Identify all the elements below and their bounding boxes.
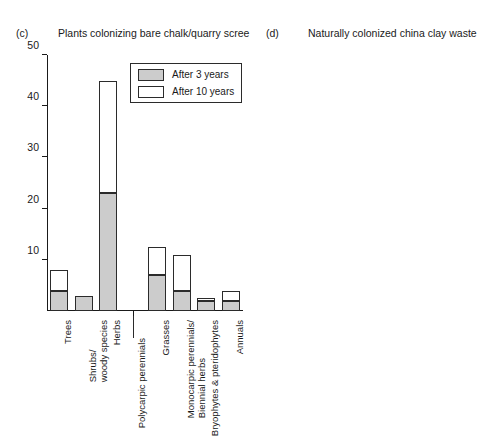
x-axis-label: Grasses	[161, 320, 172, 355]
bar	[148, 247, 166, 311]
y-tick-label: 10	[27, 245, 39, 255]
bar-segment-filled	[197, 301, 215, 311]
panel-c: (c) Plants colonizing bare chalk/quarry …	[0, 0, 250, 438]
x-axis-labels-c: TreesShrubs/woody speciesHerbsPolycarpic…	[47, 316, 243, 436]
legend-c: After 3 years After 10 years	[130, 63, 242, 103]
legend-label: After 10 years	[172, 86, 234, 98]
y-tick-label: 50	[27, 40, 39, 50]
bar-segment-open	[222, 291, 240, 301]
bar	[197, 298, 215, 311]
legend-swatch-open	[138, 86, 164, 98]
bar	[222, 291, 240, 311]
label-leader-line	[133, 316, 134, 338]
bar	[75, 296, 93, 311]
x-axis-label: Polycarpic perennials	[137, 338, 148, 428]
bar	[173, 255, 191, 311]
legend-label: After 3 years	[172, 69, 229, 81]
legend-item-after-10-years: After 10 years	[138, 85, 234, 99]
bar-segment-filled	[99, 193, 117, 311]
bar	[99, 81, 117, 311]
panel-c-letter: (c)	[16, 26, 28, 40]
bar	[50, 270, 68, 311]
y-tick-label: 30	[27, 142, 39, 152]
x-axis-label: Bryophytes & pteridophytes	[210, 320, 221, 436]
bar-segment-filled	[222, 301, 240, 311]
y-tick-label: 20	[27, 194, 39, 204]
legend-swatch-filled	[138, 69, 164, 81]
bar-segment-filled	[50, 291, 68, 311]
bar-segment-open	[99, 81, 117, 194]
bar-segment-open	[148, 247, 166, 275]
x-axis-label: Shrubs/woody species	[88, 320, 109, 382]
x-axis-label: Trees	[63, 320, 74, 344]
bar-segment-open	[173, 255, 191, 291]
panel-d-letter: (d)	[266, 26, 279, 40]
bar-segment-filled	[173, 291, 191, 311]
panel-c-title: Plants colonizing bare chalk/quarry scre…	[58, 26, 249, 40]
bar-segment-filled	[75, 296, 93, 311]
bar-segment-open	[50, 270, 68, 290]
panel-d-header: (d) Naturally colonized china clay waste	[250, 26, 500, 42]
x-axis-label: Annuals	[235, 320, 246, 354]
panel-d-title: Naturally colonized china clay waste	[308, 26, 477, 40]
y-tick-label: 40	[27, 91, 39, 101]
legend-item-after-3-years: After 3 years	[138, 68, 229, 82]
bar-segment-filled	[148, 275, 166, 311]
panel-d: (d) Naturally colonized china clay waste…	[250, 0, 500, 438]
x-axis-label: Monocarpic perennials/Biennial herbs	[186, 320, 207, 418]
x-axis-label: Herbs	[112, 320, 123, 345]
